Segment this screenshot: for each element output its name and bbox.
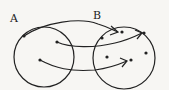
set-b-circle [93, 27, 155, 89]
arrow-a3-b5 [40, 60, 127, 71]
element-b3 [142, 31, 145, 34]
element-b5 [129, 58, 132, 61]
set-a-elements [22, 34, 58, 61]
set-b-label: B [93, 9, 101, 22]
mapping-diagram: A B [0, 0, 169, 90]
element-b1 [120, 30, 123, 33]
mapping-arrows [24, 21, 142, 71]
element-b2 [100, 36, 103, 39]
set-a-label: A [9, 12, 19, 25]
element-b4 [105, 55, 108, 58]
element-b6 [144, 51, 147, 54]
